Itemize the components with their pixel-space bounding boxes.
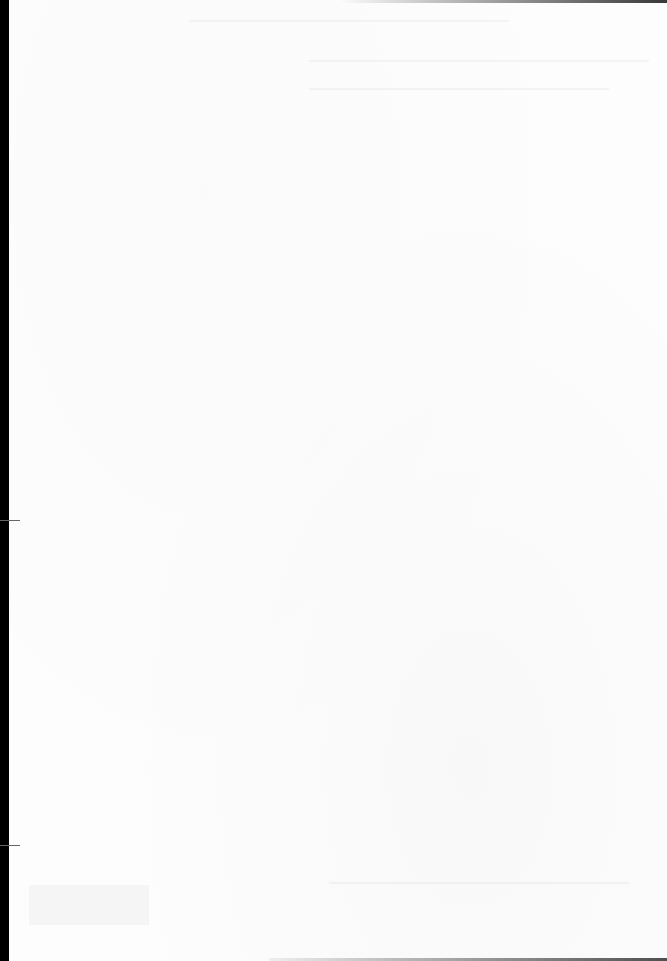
scan-edge-mark <box>0 520 20 521</box>
bleed-through-line <box>189 20 509 22</box>
blank-scanned-page <box>9 0 667 961</box>
scan-edge-shadow-top <box>339 0 667 3</box>
bleed-through-line <box>309 88 609 90</box>
bleed-through-block <box>29 885 149 925</box>
bleed-through-line <box>309 60 649 62</box>
scan-edge-mark <box>0 845 20 846</box>
bleed-through-line <box>329 882 629 884</box>
